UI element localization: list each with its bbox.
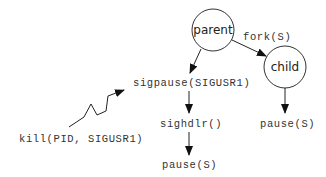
sigpause-label: sigpause(SIGUSR1)	[133, 77, 250, 89]
child-node: child	[264, 46, 306, 88]
fork-label: fork(S)	[243, 31, 291, 43]
kill-signal-lightning-edge	[69, 90, 124, 127]
parent-to-sigpause-edge	[190, 49, 201, 73]
kill-label: kill(PID, SIGUSR1)	[19, 133, 143, 145]
parent-node: parent	[192, 9, 234, 51]
parent-label: parent	[193, 23, 233, 37]
pause-right-label: pause(S)	[260, 118, 315, 130]
pause-left-label: pause(S)	[162, 159, 217, 171]
sighdlr-label: sighdlr()	[160, 118, 222, 130]
signal-flow-diagram: parent child fork(S) sigpause(SIGUSR1) s…	[0, 0, 326, 177]
child-label: child	[271, 60, 300, 74]
